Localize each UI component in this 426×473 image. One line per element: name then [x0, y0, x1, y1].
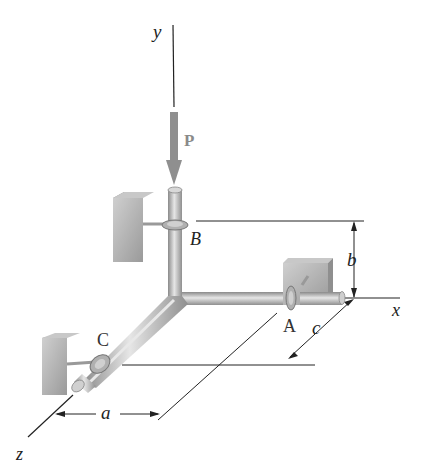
c-dimension-label: c	[312, 317, 321, 338]
x-axis-label: x	[391, 300, 400, 320]
z-axis-label: z	[15, 444, 23, 464]
support-block-b	[113, 192, 168, 262]
support-c-label: C	[97, 330, 109, 350]
diagram-canvas: y P b x c z a B	[0, 0, 426, 473]
force-p-arrow	[166, 112, 182, 185]
pipe-assembly-diagram: y P b x c z a B	[0, 0, 426, 473]
support-a-label: A	[283, 316, 296, 336]
z-axis	[28, 395, 73, 437]
y-axis-label: y	[151, 21, 162, 42]
a-diagonal-line	[158, 313, 277, 420]
support-b-label: B	[190, 229, 201, 249]
y-axis	[173, 25, 174, 107]
b-dimension-label: b	[347, 249, 357, 270]
vertical-pipe	[168, 190, 182, 296]
force-p-label: P	[184, 131, 194, 150]
a-dimension-label: a	[101, 402, 111, 423]
c-dimension-line	[290, 300, 352, 357]
